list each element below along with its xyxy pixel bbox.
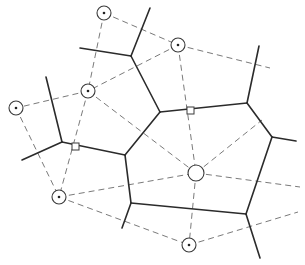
site-circle-g (188, 165, 204, 181)
voronoi-edges (22, 8, 296, 258)
voronoi-edge (246, 137, 272, 214)
site-points (9, 6, 204, 252)
voronoi-edge (80, 48, 131, 56)
site-dot-icon (103, 12, 106, 15)
voronoi-edge (46, 77, 62, 142)
voronoi-edge (246, 214, 260, 258)
site-dot-icon (177, 44, 180, 47)
voronoi-edge (131, 8, 150, 56)
delaunay-edge (196, 173, 300, 187)
delaunay-edge (189, 212, 298, 245)
voronoi-edge (131, 203, 246, 214)
right-angle-marker (72, 143, 79, 150)
voronoi-edge (272, 137, 296, 141)
right-angle-markers (72, 107, 194, 150)
voronoi-edge (247, 103, 272, 137)
voronoi-edge (131, 56, 160, 112)
site-dot-icon (188, 244, 191, 247)
right-angle-marker (187, 107, 194, 114)
voronoi-edge (122, 203, 131, 228)
voronoi-diagram (0, 0, 305, 265)
site-dot-icon (87, 90, 90, 93)
site-dot-icon (15, 107, 18, 110)
site-dot-icon (58, 196, 61, 199)
voronoi-edge (247, 46, 259, 103)
delaunay-edge (196, 120, 262, 173)
voronoi-edge (160, 103, 247, 112)
delaunay-edge (88, 91, 196, 173)
voronoi-edge (22, 142, 62, 160)
voronoi-edge (125, 155, 131, 203)
diagram-canvas (0, 0, 305, 265)
voronoi-edge (125, 112, 160, 155)
